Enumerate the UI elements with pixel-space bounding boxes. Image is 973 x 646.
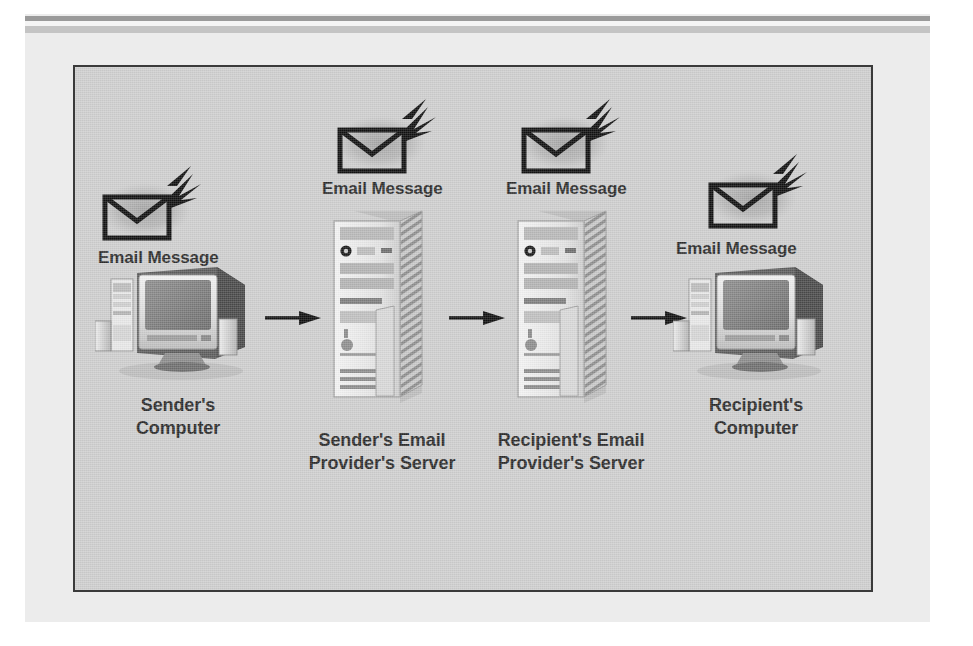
desktop-computer-icon [95,263,259,381]
envelope-with-lightning-icon [512,95,630,181]
top-rule-light [25,26,930,33]
node-label-recipient-computer: Recipient's Computer [653,394,859,440]
message-label-recipient: Email Message [676,239,797,259]
node-label-sender-computer: Sender's Computer [75,394,281,440]
node-label-recipient-server: Recipient's Email Provider's Server [473,429,669,475]
server-tower-icon [326,207,438,419]
desktop-computer-icon [673,263,837,381]
envelope-with-lightning-icon [328,95,446,181]
message-label-sender-server: Email Message [322,179,443,199]
envelope-with-lightning-icon [699,150,817,236]
right-arrow-icon [265,310,321,326]
envelope-with-lightning-icon [93,162,211,248]
node-label-sender-server: Sender's Email Provider's Server [293,429,471,475]
server-tower-icon [510,207,622,419]
message-label-recipient-server: Email Message [506,179,627,199]
right-arrow-icon [449,310,505,326]
diagram-panel: Email Message [73,65,873,592]
